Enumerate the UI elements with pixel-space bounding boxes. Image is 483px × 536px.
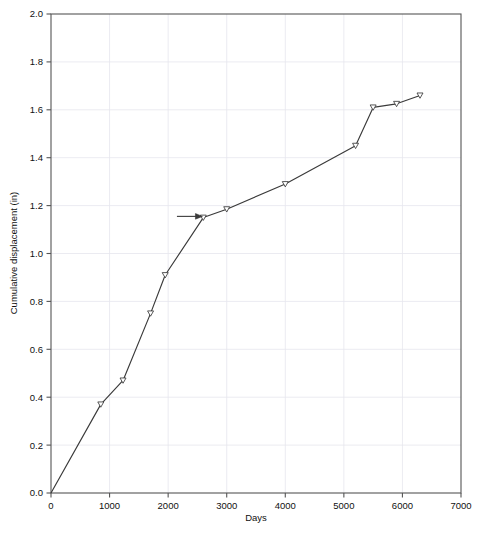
y-tick-label: 2.0	[30, 8, 43, 19]
data-point-marker	[148, 311, 154, 316]
x-tick-label: 3000	[216, 500, 237, 511]
x-tick-label: 1000	[99, 500, 120, 511]
x-tick-label: 6000	[392, 500, 413, 511]
y-tick-label: 1.0	[30, 248, 43, 259]
y-tick-label: 0.8	[30, 296, 43, 307]
figure-container: 010002000300040005000600070000.00.20.40.…	[0, 0, 483, 536]
data-point-marker	[353, 143, 359, 148]
x-tick-label: 0	[48, 500, 53, 511]
y-tick-label: 0.2	[30, 440, 43, 451]
data-point-marker	[162, 273, 168, 278]
arrow-annotation	[177, 214, 203, 220]
y-tick-label: 0.0	[30, 487, 43, 498]
data-point-marker	[282, 182, 288, 187]
y-tick-label: 1.2	[30, 200, 43, 211]
y-axis-label: Cumulative displacement (in)	[8, 192, 19, 315]
data-series-line	[51, 95, 420, 493]
gridlines	[51, 14, 461, 493]
x-tick-label: 4000	[275, 500, 296, 511]
x-tick-label: 7000	[450, 500, 471, 511]
axis-ticks	[47, 14, 462, 498]
y-tick-label: 1.4	[30, 152, 43, 163]
data-point-markers	[98, 93, 423, 407]
data-point-marker	[98, 402, 104, 407]
x-axis-label: Days	[245, 512, 267, 523]
x-tick-label: 5000	[333, 500, 354, 511]
y-tick-label: 1.8	[30, 56, 43, 67]
y-tick-label: 0.6	[30, 344, 43, 355]
y-tick-label: 1.6	[30, 104, 43, 115]
x-tick-label: 2000	[158, 500, 179, 511]
axis-tick-labels: 010002000300040005000600070000.00.20.40.…	[30, 8, 472, 511]
cumulative-displacement-chart: 010002000300040005000600070000.00.20.40.…	[0, 0, 483, 536]
y-tick-label: 0.4	[30, 392, 43, 403]
